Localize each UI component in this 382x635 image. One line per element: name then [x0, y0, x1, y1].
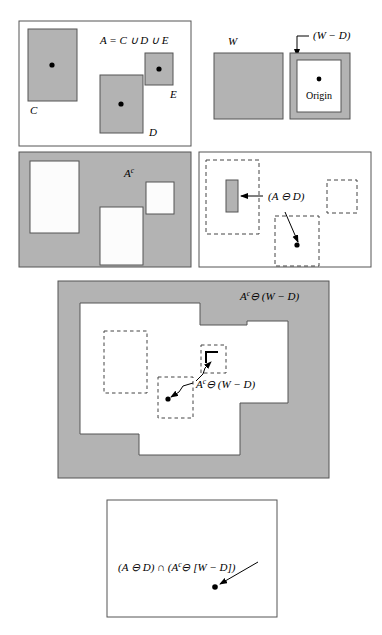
figure-canvas: C D E A = C ∪ D ∪ E W (W − D) Origin Ac [0, 0, 382, 635]
set-A-caption: A = C ∪ D ∪ E [99, 34, 169, 46]
hit-or-miss-result-panel: (A ⊖ D) ∩ (Ac⊖ [W − D]) [107, 500, 277, 617]
set-W-square [214, 53, 283, 119]
rect-E-center-dot [156, 66, 161, 71]
window-minus-D-inner-hole [297, 60, 341, 112]
origin-label: Origin [306, 90, 332, 101]
erosion-Ac-by-W-minus-D-panel: Ac⊖ (W − D) Ac⊖ (W − D) [58, 281, 329, 478]
result-caption: (A ⊖ D) ∩ (Ac⊖ [W − D]) [118, 560, 236, 574]
origin-dot [317, 77, 322, 82]
set-A-panel: C D E A = C ∪ D ∪ E [19, 21, 191, 146]
hole-D [100, 207, 143, 265]
result-dot [212, 584, 218, 590]
erosion-A-by-D-label: (A ⊖ D) [268, 190, 305, 203]
complement-of-A-panel: Ac [19, 152, 191, 267]
rect-D-center-dot [118, 101, 123, 106]
erosion-A-by-D-frame [199, 152, 371, 267]
erosion-A-by-D-panel: (A ⊖ D) [199, 152, 371, 267]
rect-C-center-dot [49, 62, 54, 67]
hole-E [146, 182, 174, 214]
eroded-point-dot [165, 396, 170, 401]
morphology-figure: C D E A = C ∪ D ∪ E W (W − D) Origin Ac [0, 0, 382, 635]
window-minus-D-label: (W − D) [313, 29, 351, 42]
result-frame [107, 500, 277, 617]
rect-E-label: E [169, 88, 177, 100]
set-W-label: W [228, 35, 238, 47]
erosion-of-D-result-dot [294, 242, 299, 247]
rect-D-label: D [148, 126, 157, 138]
erosion-of-C-result [226, 180, 238, 212]
rect-C-label: C [30, 104, 38, 116]
hole-C [30, 161, 79, 233]
